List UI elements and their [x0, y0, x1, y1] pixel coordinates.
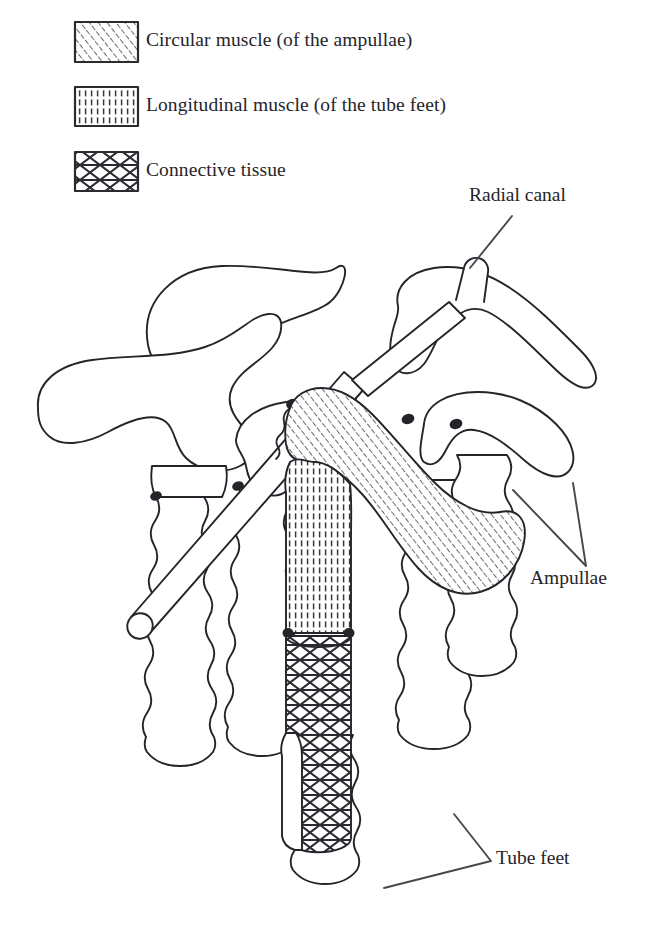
- cutaway-tube-foot-longitudinal-muscle: [285, 459, 351, 633]
- callout-label-ampullae: Ampullae: [530, 568, 607, 588]
- legend-label-connective-tissue: Connective tissue: [146, 160, 286, 180]
- figure-root: Circular muscle (of the ampullae) Longit…: [0, 0, 645, 942]
- legend-label-circular-muscle: Circular muscle (of the ampullae): [146, 30, 412, 50]
- legend-label-longitudinal-muscle: Longitudinal muscle (of the tube feet): [146, 95, 446, 115]
- legend-swatch-connective-tissue: [75, 152, 138, 191]
- cutaway-tube-foot-wall-step: [281, 733, 302, 850]
- ampulla-outline-2-neck: [151, 466, 227, 497]
- callout-leader-tube-feet: [384, 814, 491, 888]
- anatomy-diagram: [0, 0, 645, 942]
- legend-swatch-circular-muscle: [75, 22, 138, 62]
- callout-label-tube-feet: Tube feet: [496, 848, 569, 868]
- legend-swatch-longitudinal-muscle: [75, 87, 138, 126]
- callout-label-radial-canal: Radial canal: [469, 185, 566, 205]
- callout-leader-radial-canal: [470, 216, 512, 268]
